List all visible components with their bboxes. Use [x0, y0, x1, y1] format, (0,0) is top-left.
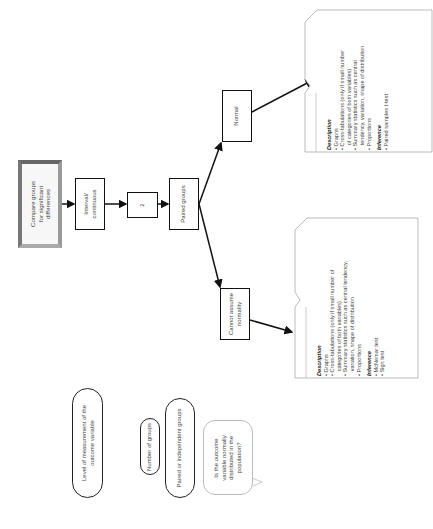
- arrow-pairing-to-normal: [199, 143, 221, 204]
- legend-level-label: Level of measurement of the outcome vari…: [80, 405, 95, 481]
- callout-not-normal-item: • Proportions: [356, 261, 363, 376]
- not-normal-box: Cannot assume normality: [220, 288, 250, 340]
- measurement-box: Interval/ continuous: [75, 178, 105, 230]
- callout-not-normal-text: Description • Graphs • Cross-tabulations…: [316, 261, 386, 376]
- callout-not-normal-item: • Summary statistics such as central ten…: [342, 261, 349, 376]
- callout-not-normal-inference-item: • Sign test: [379, 261, 386, 376]
- measurement-label: Interval/ continuous: [83, 189, 98, 218]
- callout-normal-item: tendency, variation, shape of distributi…: [359, 46, 366, 150]
- arrow-not-normal-to-callout: [250, 320, 292, 332]
- groups-label: 2: [139, 203, 147, 206]
- legend-paired-or-independent: Paired or independent groups: [165, 398, 195, 498]
- callout-normal-item: • Proportions: [366, 46, 373, 150]
- callout-normal-inference-heading: Inference: [376, 46, 383, 150]
- callout-not-normal-description-heading: Description: [316, 261, 323, 376]
- callout-normal-item: • Graphs: [333, 46, 340, 150]
- callout-normal-description-heading: Description: [326, 46, 333, 150]
- callout-not-normal-item: categories of both variables): [336, 261, 343, 376]
- pairing-box: Paired groups: [169, 178, 199, 230]
- callout-normal-item: of categories of both variables): [346, 46, 353, 150]
- start-label: Compare groups for significant differenc…: [29, 181, 52, 227]
- not-normal-label: Cannot assume normality: [228, 293, 243, 335]
- normal-box: Normal: [222, 90, 252, 142]
- pairing-label: Paired groups: [180, 185, 188, 222]
- callout-not-normal-item: • Cross-tabulations (only if small numbe…: [329, 261, 336, 376]
- callout-normal-text: Description • Graphs • Cross-tabulations…: [326, 46, 389, 150]
- callout-not-normal-item: • Graphs: [323, 261, 330, 376]
- legend-number-of-groups: Number of groups: [140, 418, 160, 475]
- callout-normal-inference-item: • Paired samples t-test: [383, 46, 390, 150]
- groups-box: 2: [127, 192, 158, 218]
- legend-paired-label: Paired or independent groups: [176, 408, 184, 487]
- speech-bubble-tail: [252, 478, 262, 486]
- normal-label: Normal: [233, 106, 241, 125]
- start-box: Compare groups for significant differenc…: [18, 160, 62, 248]
- callout-not-normal-item: variation, shape of distribution: [349, 261, 356, 376]
- legend-number-label: Number of groups: [146, 422, 154, 470]
- arrow-normal-to-callout: [252, 80, 313, 112]
- callout-not-normal-inference-item: • McNemar test: [373, 261, 380, 376]
- legend-normality-question: Is the outcome variable normally distrib…: [203, 420, 253, 495]
- callout-normal-item: • Cross-tabulations (only if small numbe…: [339, 46, 346, 150]
- legend-question-label: Is the outcome variable normally distrib…: [213, 435, 243, 480]
- callout-not-normal-inference-heading: Inference: [366, 261, 373, 376]
- callout-normal-item: • Summary statistics such as central: [352, 46, 359, 150]
- arrow-pairing-to-not-normal: [199, 204, 220, 287]
- legend-level-of-measurement: Level of measurement of the outcome vari…: [72, 388, 103, 498]
